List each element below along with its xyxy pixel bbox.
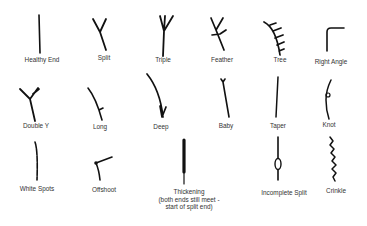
label-tree: Tree [274, 56, 287, 64]
offshoot-icon [94, 157, 112, 180]
hair-end-types-diagram: Healthy End Split Triple Feather Tree Ri… [0, 0, 367, 226]
long-split-icon [88, 88, 103, 120]
crinkle-icon [330, 137, 336, 181]
double-y-fork-icon [20, 88, 39, 121]
label-long: Long [93, 123, 107, 131]
y-fork-icon [93, 19, 106, 50]
label-thickening-line-2: (both ends still meet - [144, 196, 234, 204]
baby-split-icon [221, 79, 229, 117]
label-triple: Triple [155, 56, 171, 64]
straight-line-icon [39, 15, 40, 53]
label-incomplete-split: Incomplete Split [261, 189, 306, 197]
label-baby: Baby [219, 122, 234, 130]
right-angle-icon [327, 28, 344, 51]
incomplete-split-icon [275, 137, 281, 180]
white-spots-line-icon [35, 142, 37, 180]
label-thickening: Thickening (both ends still meet - start… [144, 188, 234, 211]
knot-icon [326, 80, 331, 119]
label-taper: Taper [270, 122, 286, 130]
label-deep: Deep [153, 123, 168, 131]
label-double-y: Double Y [23, 122, 49, 130]
label-thickening-line-1: Thickening [144, 188, 234, 196]
label-crinkle: Crinkle [326, 187, 346, 195]
tree-branches-icon [264, 22, 284, 55]
label-feather: Feather [211, 56, 233, 64]
deep-split-icon [147, 74, 166, 117]
label-thickening-line-3: start of split end) [144, 203, 234, 211]
triple-fork-icon [160, 16, 173, 56]
label-offshoot: Offshoot [92, 186, 116, 194]
feather-branch-icon [211, 18, 226, 50]
label-right-angle: Right Angle [315, 58, 348, 66]
label-knot: Knot [322, 121, 335, 129]
label-split: Split [98, 54, 110, 62]
label-white-spots: White Spots [20, 185, 54, 193]
label-healthy-end: Healthy End [25, 56, 60, 64]
taper-line-icon [276, 77, 278, 117]
